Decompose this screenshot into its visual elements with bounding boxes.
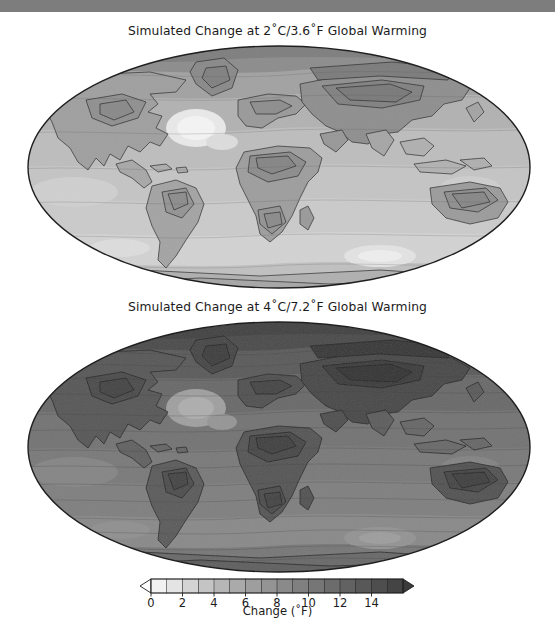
colorbar-swatch [182, 579, 198, 593]
panel-2c: Simulated Change at 2˚C/3.6˚F Global War… [0, 24, 555, 296]
figure-root: Simulated Change at 2˚C/3.6˚F Global War… [0, 0, 555, 622]
colorbar-swatch [229, 579, 245, 593]
panel-4c: Simulated Change at 4˚C/7.2˚F Global War… [0, 300, 555, 576]
colorbar-swatch [277, 579, 293, 593]
colorbar-swatches [151, 579, 403, 593]
colorbar-swatch [245, 579, 261, 593]
world-map-4c [0, 318, 555, 576]
colorbar-swatch [324, 579, 340, 593]
colorbar-under-arrow [140, 579, 151, 593]
colorbar-swatch [387, 579, 403, 593]
panel-4c-title: Simulated Change at 4˚C/7.2˚F Global War… [0, 300, 555, 314]
colorbar-swatch [166, 579, 182, 593]
world-map-2c [0, 42, 555, 292]
colorbar-swatch [292, 579, 308, 593]
colorbar-swatch [340, 579, 356, 593]
panel-4c-map [0, 318, 555, 576]
colorbar-swatch [308, 579, 324, 593]
colorbar-swatch [371, 579, 387, 593]
colorbar-swatch [355, 579, 371, 593]
colorbar-swatch [151, 579, 167, 593]
colorbar-over-arrow [403, 579, 414, 593]
colorbar-swatch [198, 579, 214, 593]
window-top-bar [0, 0, 555, 12]
panel-2c-map [0, 42, 555, 292]
panel-2c-title: Simulated Change at 2˚C/3.6˚F Global War… [0, 24, 555, 38]
colorbar-swatch [261, 579, 277, 593]
colorbar-label: Change (˚F) [0, 604, 555, 618]
colorbar-swatch [214, 579, 230, 593]
